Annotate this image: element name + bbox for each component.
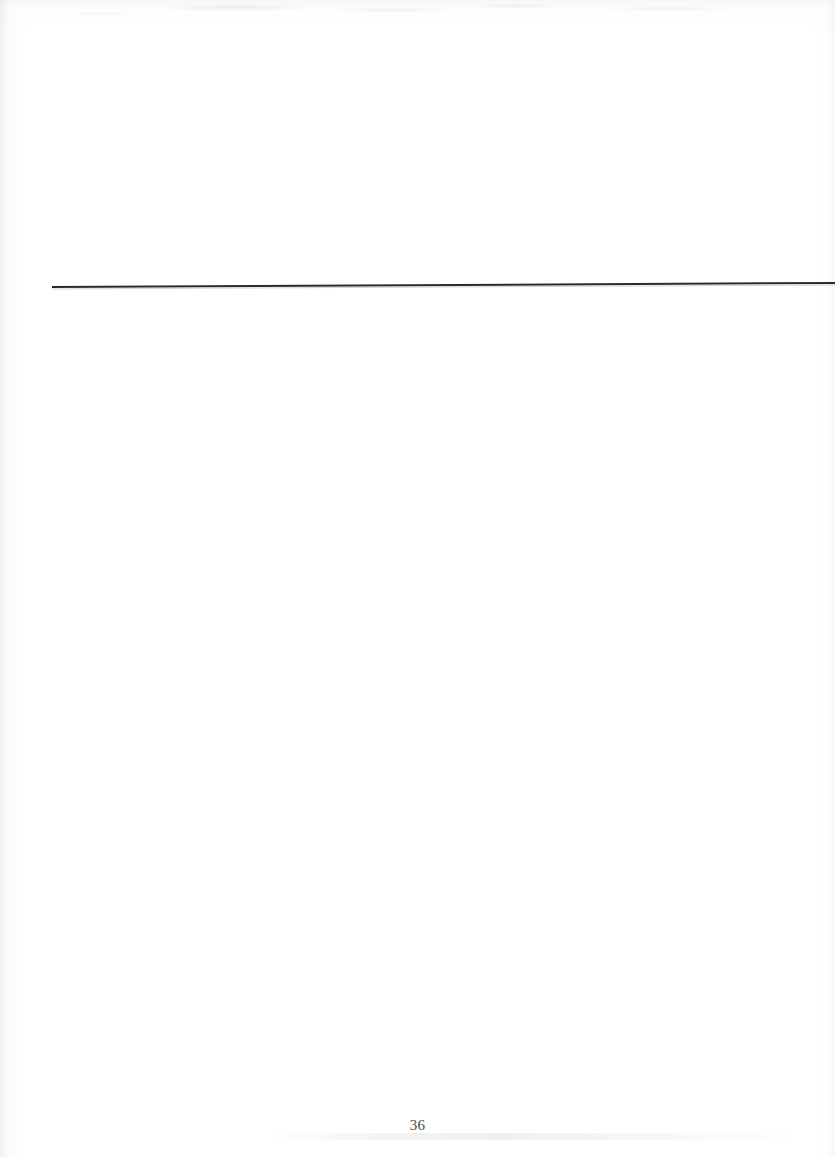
rule-stroke: [52, 283, 835, 287]
paper-tint-overlay: [0, 0, 835, 1157]
scan-noise-top: [0, 0, 835, 34]
page-number: 36: [0, 1115, 835, 1135]
rule-stroke-shadow: [52, 285, 835, 289]
horizontal-rule: [0, 268, 835, 298]
scanned-page: 36: [0, 0, 835, 1157]
